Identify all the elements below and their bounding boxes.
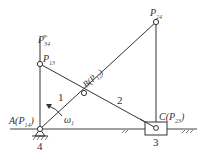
link-label-2: 2 xyxy=(117,94,123,106)
label-B: B(P12) xyxy=(81,67,106,90)
pivot-P24 xyxy=(153,19,158,24)
ground-hatch-mid xyxy=(122,130,128,133)
pivot-P13 xyxy=(37,61,42,66)
pivot-C xyxy=(154,126,159,131)
pivot-A xyxy=(37,126,42,131)
label-A: A(P14) xyxy=(8,115,35,128)
link-label-3: 3 xyxy=(153,136,159,148)
label-P24: P24 xyxy=(149,7,162,20)
label-P13: P13 xyxy=(42,53,55,66)
label-omega: ω1 xyxy=(64,114,74,126)
label-P34: P34∞ xyxy=(37,33,50,47)
link-label-1: 1 xyxy=(58,91,64,103)
mechanism-diagram: P34∞ P13 B(P12) P24 A(P14) C(P23) 1 2 3 … xyxy=(0,0,208,158)
link-label-4: 4 xyxy=(37,140,43,152)
ground-hatch-right xyxy=(182,130,193,133)
pivot-B xyxy=(81,90,86,95)
